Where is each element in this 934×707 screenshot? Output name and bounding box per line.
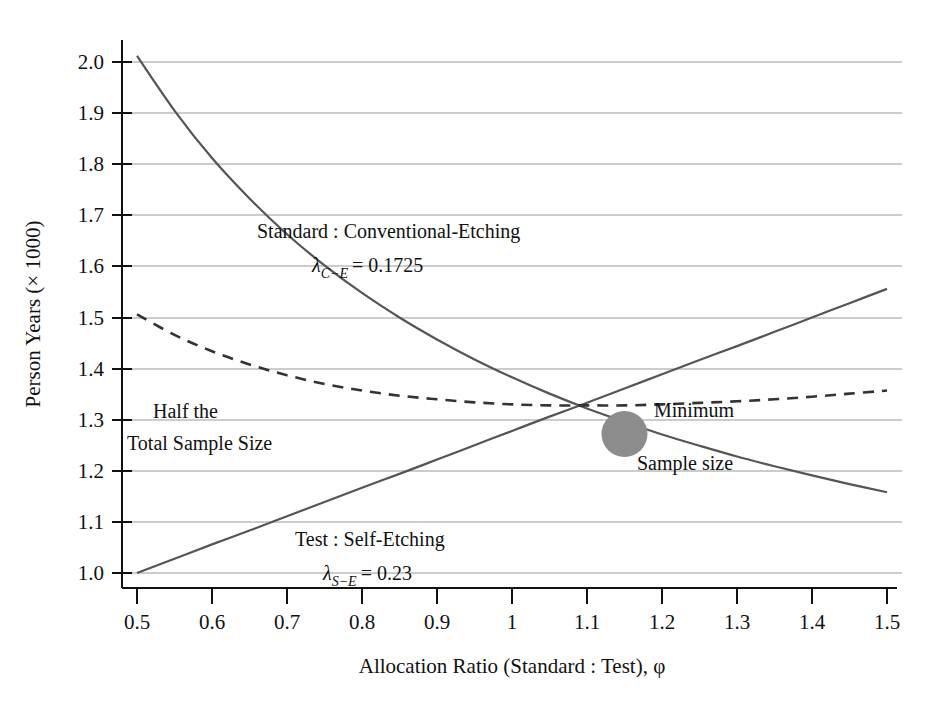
ytick-label-9: 1.9 bbox=[78, 101, 104, 125]
xtick-label-2: 0.7 bbox=[274, 610, 300, 634]
xtick-label-6: 1.1 bbox=[574, 610, 600, 634]
ytick-label-6: 1.6 bbox=[78, 254, 104, 278]
ytick-label-3: 1.3 bbox=[78, 408, 104, 432]
xtick-label-4: 0.9 bbox=[424, 610, 450, 634]
chart-canvas: 2.0 1.9 1.8 1.7 1.6 1.5 1.4 1.3 1.2 1.1 … bbox=[0, 0, 934, 707]
lambda-symbol-c-e: λ bbox=[311, 254, 321, 276]
ytick-label-5: 1.5 bbox=[78, 306, 104, 330]
ytick-label-0: 1.0 bbox=[78, 561, 104, 585]
annotation-test-label: Test : Self-Etching bbox=[295, 528, 445, 551]
ytick-label-2: 1.2 bbox=[78, 459, 104, 483]
xtick-label-5: 1 bbox=[507, 610, 518, 634]
ytick-label-4: 1.4 bbox=[78, 357, 105, 381]
y-axis-title: Person Years (× 1000) bbox=[21, 221, 45, 408]
series-line-half-total-sample-size bbox=[137, 314, 887, 405]
xtick-label-8: 1.3 bbox=[724, 610, 750, 634]
lambda-subscript-s-e: S−E bbox=[332, 574, 357, 589]
lambda-value-s-e: = 0.23 bbox=[361, 562, 412, 584]
series-line-standard-conventional-etching bbox=[137, 56, 887, 492]
annotation-half-total-sample-size: Half the Total Sample Size bbox=[127, 400, 272, 455]
annotation-sample-size: Sample size bbox=[637, 452, 733, 475]
xtick-label-7: 1.2 bbox=[649, 610, 675, 634]
annotation-standard-label: Standard : Conventional-Etching bbox=[257, 220, 520, 243]
lambda-symbol-s-e: λ bbox=[322, 562, 332, 584]
annotation-minimum-sample-size: Minimum Sample size bbox=[637, 399, 734, 475]
xtick-label-1: 0.6 bbox=[199, 610, 225, 634]
lambda-subscript-c-e: C−E bbox=[321, 266, 349, 281]
xtick-label-10: 1.5 bbox=[874, 610, 900, 634]
minimum-sample-size-marker bbox=[602, 411, 648, 457]
ytick-label-8: 1.8 bbox=[78, 152, 104, 176]
x-axis-ticks bbox=[137, 588, 887, 604]
xtick-label-0: 0.5 bbox=[124, 610, 150, 634]
annotation-half-the: Half the bbox=[153, 400, 218, 422]
ytick-label-7: 1.7 bbox=[78, 203, 104, 227]
series-line-test-self-etching bbox=[137, 289, 887, 573]
annotation-test-lambda: λS−E= 0.23 bbox=[322, 562, 412, 589]
annotation-standard-lambda: λC−E= 0.1725 bbox=[311, 254, 423, 281]
figure-container: 2.0 1.9 1.8 1.7 1.6 1.5 1.4 1.3 1.2 1.1 … bbox=[0, 0, 934, 707]
gridlines bbox=[122, 62, 902, 573]
annotation-test-self-etching: Test : Self-Etching λS−E= 0.23 bbox=[295, 528, 445, 589]
annotation-minimum: Minimum bbox=[654, 399, 734, 421]
annotation-standard-conventional-etching: Standard : Conventional-Etching λC−E= 0.… bbox=[257, 220, 520, 281]
data-series-group bbox=[137, 56, 887, 573]
annotation-total-sample-size: Total Sample Size bbox=[127, 432, 272, 455]
ytick-label-10: 2.0 bbox=[78, 50, 104, 74]
x-axis-title: Allocation Ratio (Standard : Test), φ bbox=[359, 654, 666, 678]
lambda-value-c-e: = 0.1725 bbox=[352, 254, 423, 276]
ytick-label-1: 1.1 bbox=[78, 510, 104, 534]
y-axis-tick-labels: 2.0 1.9 1.8 1.7 1.6 1.5 1.4 1.3 1.2 1.1 … bbox=[78, 50, 105, 585]
x-axis-tick-labels: 0.5 0.6 0.7 0.8 0.9 1 1.1 1.2 1.3 1.4 1.… bbox=[124, 610, 900, 634]
xtick-label-3: 0.8 bbox=[349, 610, 375, 634]
xtick-label-9: 1.4 bbox=[799, 610, 826, 634]
